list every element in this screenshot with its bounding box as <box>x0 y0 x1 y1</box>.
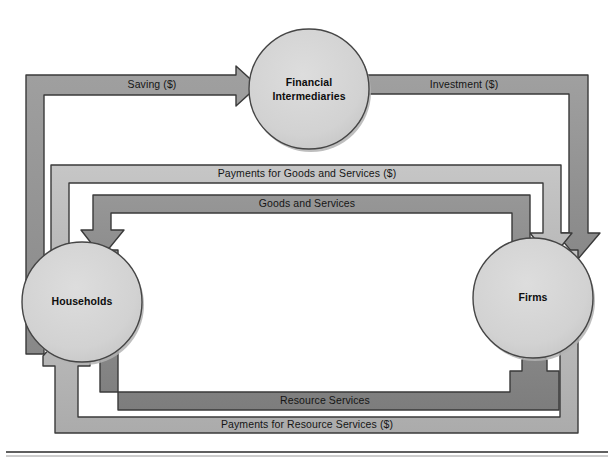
flow-label-payments-resources: Payments for Resource Services ($) <box>221 418 393 430</box>
flow-label-goods-services: Goods and Services <box>259 197 355 209</box>
flow-goods-services <box>81 195 530 350</box>
node-financial-intermediaries: Financial Intermediaries <box>249 29 371 152</box>
flow-canvas: Financial Intermediaries Households Firm… <box>0 0 614 462</box>
node-firms: Firms <box>473 238 595 361</box>
bottom-rule <box>6 452 608 456</box>
node-label-financial-intermediaries-line2: Intermediaries <box>272 90 345 102</box>
flow-label-payments-goods: Payments for Goods and Services ($) <box>218 167 397 179</box>
flow-label-investment: Investment ($) <box>430 78 499 90</box>
node-label-financial-intermediaries-line1: Financial <box>286 76 332 88</box>
circular-flow-diagram: Financial Intermediaries Households Firm… <box>0 0 614 462</box>
flow-label-saving: Saving ($) <box>128 78 177 90</box>
node-label-households: Households <box>51 295 112 307</box>
flow-label-resource-services: Resource Services <box>280 394 370 406</box>
node-label-firms: Firms <box>518 291 547 303</box>
